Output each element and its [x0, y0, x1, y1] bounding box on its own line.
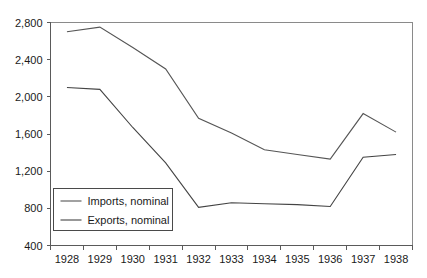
x-axis-label-1928: 1928 [55, 253, 79, 265]
x-axis-label-1931: 1931 [153, 253, 177, 265]
chart-canvas: 4008001,2001,6002,0002,4002,800 19281929… [0, 0, 427, 278]
y-axis-label-400: 400 [24, 240, 42, 252]
legend-label-imports-nominal: Imports, nominal [88, 195, 169, 207]
y-axis-label-800: 800 [24, 202, 42, 214]
series-line-imports-nominal [67, 27, 396, 159]
x-axis-label-1934: 1934 [252, 253, 276, 265]
legend-label-exports-nominal: Exports, nominal [88, 214, 170, 226]
y-axis-label-2000: 2,000 [15, 91, 43, 103]
x-axis-label-1938: 1938 [384, 253, 408, 265]
line-chart-figure: 4008001,2001,6002,0002,4002,800 19281929… [0, 0, 427, 278]
y-axis-label-1600: 1,600 [15, 128, 43, 140]
x-axis-label-1930: 1930 [121, 253, 145, 265]
data-series-lines [67, 27, 396, 207]
chart-legend: Imports, nominalExports, nominal [54, 189, 173, 231]
x-axis-label-1933: 1933 [219, 253, 243, 265]
x-axis-label-1935: 1935 [285, 253, 309, 265]
x-axis-label-1932: 1932 [186, 253, 210, 265]
x-axis-tick-labels: 1928192919301931193219331934193519361937… [55, 253, 409, 265]
y-axis-label-2400: 2,400 [15, 54, 43, 66]
x-axis-label-1929: 1929 [88, 253, 112, 265]
x-axis-label-1936: 1936 [318, 253, 342, 265]
y-axis-ticks [47, 23, 51, 246]
x-axis-label-1937: 1937 [351, 253, 375, 265]
y-axis-tick-labels: 4008001,2001,6002,0002,4002,800 [15, 17, 43, 252]
y-axis-label-2800: 2,800 [15, 17, 43, 29]
y-axis-label-1200: 1,200 [15, 165, 43, 177]
x-axis-ticks [51, 246, 413, 250]
